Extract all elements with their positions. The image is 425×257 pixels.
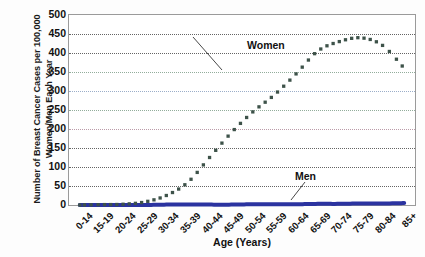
series-marker-women	[401, 64, 404, 67]
series-marker-women	[128, 202, 131, 205]
series-marker-women	[388, 50, 391, 53]
y-axis-tick-label: 150	[38, 142, 66, 152]
series-marker-women	[220, 141, 223, 144]
y-axis-tick-label: 450	[38, 28, 66, 38]
series-marker-women	[319, 47, 322, 50]
series-marker-women	[245, 116, 248, 119]
series-marker-women	[288, 78, 291, 81]
y-axis-tick-label: 200	[38, 123, 66, 133]
series-marker-women	[239, 122, 242, 125]
x-axis-title: Age (Years)	[68, 236, 416, 248]
series-marker-women	[251, 110, 254, 113]
series-marker-women	[226, 134, 229, 137]
series-marker-women	[140, 201, 143, 204]
series-marker-women	[276, 90, 279, 93]
series-marker-women	[301, 65, 304, 68]
series-marker-women	[356, 36, 359, 39]
series-marker-women	[134, 202, 137, 205]
series-marker-women	[233, 128, 236, 131]
series-marker-women	[362, 37, 365, 40]
series-marker-women	[313, 52, 316, 55]
series-marker-women	[375, 40, 378, 43]
series-marker-women	[152, 198, 155, 201]
series-marker-women	[158, 196, 161, 199]
y-axis-tick-labels: 050100150200250300350400450500	[36, 0, 66, 257]
series-marker-women	[196, 171, 199, 174]
series-marker-women	[146, 200, 149, 203]
series-marker-women	[381, 44, 384, 47]
series-marker-women	[189, 178, 192, 181]
y-axis-tick-label: 400	[38, 47, 66, 57]
series-marker-women	[214, 149, 217, 152]
y-axis-title: Number of Breast Cancer Cases per 100,00…	[0, 0, 36, 220]
y-axis-tick-label: 0	[38, 199, 66, 209]
y-axis-tick-label: 350	[38, 66, 66, 76]
series-marker-women	[294, 72, 297, 75]
series-marker-women	[208, 156, 211, 159]
y-axis-tick-label: 50	[38, 180, 66, 190]
series-marker-women	[177, 187, 180, 190]
series-marker-women	[264, 101, 267, 104]
series-marker-women	[395, 58, 398, 61]
series-marker-women	[171, 191, 174, 194]
y-axis-tick-label: 100	[38, 161, 66, 171]
series-marker-women	[257, 105, 260, 108]
series-annotation-men: Men	[295, 170, 316, 182]
series-marker-women	[270, 96, 273, 99]
series-marker-women	[331, 42, 334, 45]
series-marker-women	[369, 38, 372, 41]
series-marker-women	[338, 40, 341, 43]
leader-line-women	[193, 37, 222, 70]
series-marker-women	[202, 163, 205, 166]
series-marker-women	[165, 194, 168, 197]
series-marker-women	[325, 44, 328, 47]
y-axis-tick-label: 300	[38, 85, 66, 95]
y-axis-tick-label: 500	[38, 9, 66, 19]
series-layer	[69, 15, 415, 205]
series-marker-women	[350, 37, 353, 40]
y-axis-tick-label: 250	[38, 104, 66, 114]
leader-line-men	[291, 182, 305, 200]
series-marker-women	[282, 85, 285, 88]
series-annotation-women: Women	[247, 39, 285, 51]
series-marker-women	[183, 183, 186, 186]
plot-area: Women Men	[68, 14, 416, 206]
series-marker-women	[344, 38, 347, 41]
series-marker-women	[307, 58, 310, 61]
chart-figure: Number of Breast Cancer Cases per 100,00…	[0, 0, 425, 257]
